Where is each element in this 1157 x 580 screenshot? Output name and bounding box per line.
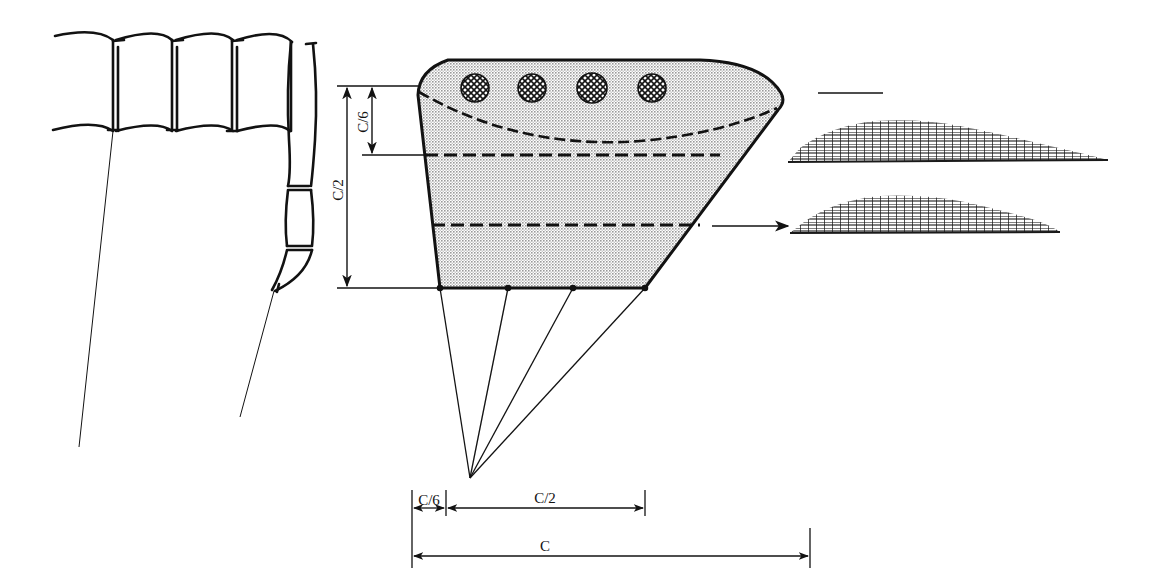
wing-planform [418, 60, 783, 288]
panel-bottom-edge-2 [116, 126, 172, 132]
airfoil-section-lower [790, 196, 1060, 233]
dim-label-c-over-6-horizontal: C/6 [418, 492, 440, 508]
projection-node-4 [642, 285, 647, 290]
tail-left-edge-2 [286, 190, 288, 246]
diagram-canvas: C/6 C/2 [0, 0, 1157, 580]
panel-top-edge-3 [176, 34, 233, 41]
panel-bottom-edge-3 [176, 126, 233, 132]
projection-node-2 [505, 285, 510, 290]
panel-bottom-edge-1 [53, 125, 113, 131]
panel-rib-tick-2t [172, 40, 183, 41]
airfoil-lower-chordline [790, 232, 1060, 233]
strip-projection-lines [79, 131, 274, 447]
projection-line-1 [440, 288, 470, 478]
airfoil-lower-fill [790, 196, 1060, 233]
marker-circle-1 [461, 74, 489, 102]
projection-line-2 [470, 288, 508, 478]
tail-right-edge-2 [311, 190, 313, 246]
panel-bottom-edge-4 [237, 126, 290, 132]
projection-node-3 [570, 285, 575, 290]
projection-node-1 [437, 285, 442, 290]
tail-right-edge-1 [311, 44, 316, 186]
marker-circle-2 [518, 74, 546, 102]
panel-rib-tick-3t [232, 40, 243, 41]
developed-panel-strip [53, 32, 316, 292]
dim-label-c-over-2-horizontal: C/2 [534, 490, 556, 506]
diagram-svg: C/6 C/2 [0, 0, 1157, 580]
marker-circle-3 [577, 73, 607, 103]
airfoil-upper-fill [788, 120, 1108, 162]
dim-label-c-horizontal: C [540, 538, 550, 554]
panel-top-edge-4 [237, 34, 292, 42]
strip-projection-line-right [240, 291, 274, 417]
panel-rib-tick-1t [113, 40, 124, 41]
tail-tip-tick [277, 284, 279, 292]
panel-top-edge-1 [55, 32, 113, 40]
strip-projection-line-left [79, 131, 113, 447]
marker-circle-4 [638, 74, 666, 102]
projection-lines-to-apex [437, 285, 647, 478]
horizontal-dimension-group [412, 490, 810, 568]
tail-tick-top [306, 43, 316, 44]
airfoil-section-upper [788, 120, 1108, 162]
dim-label-c-over-6-vertical: C/6 [355, 111, 371, 133]
dim-label-c-over-2-vertical: C/2 [330, 179, 346, 201]
